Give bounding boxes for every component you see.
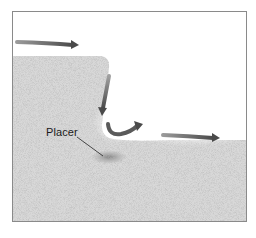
diagram-frame: Placer (12, 11, 247, 222)
placer-label: Placer (46, 126, 78, 138)
diagram-canvas (13, 12, 247, 222)
placer-deposit (91, 150, 127, 164)
